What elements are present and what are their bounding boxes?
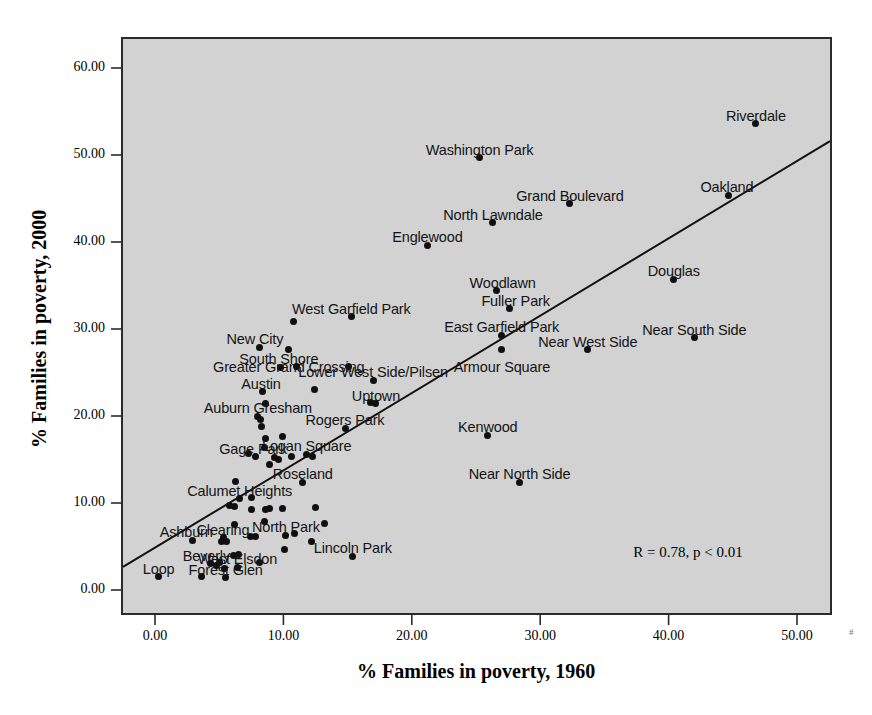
- data-point-label: East Garfield Park: [444, 319, 559, 335]
- data-point: [231, 503, 238, 510]
- data-point: [279, 505, 286, 512]
- data-point-label: Auburn Gresham: [204, 400, 312, 416]
- data-point: [258, 423, 265, 430]
- data-point: [311, 386, 318, 393]
- data-point-label: Near West Side: [538, 334, 637, 350]
- x-tick-label: 30.00: [518, 628, 562, 644]
- y-tick-label: 20.00: [47, 407, 105, 423]
- data-point-label: New City: [227, 331, 284, 347]
- data-point-label: Near South Side: [642, 322, 746, 338]
- data-point-label: Grand Boulevard: [516, 188, 623, 204]
- x-tick-label: 10.00: [261, 628, 305, 644]
- data-point-label: Lower West Side/Pilsen: [298, 364, 448, 380]
- data-point-label: Loop: [143, 561, 175, 577]
- data-point-label: Fuller Park: [481, 293, 549, 309]
- data-point-label: Forest Glen: [189, 562, 263, 578]
- correlation-annotation: R = 0.78, p < 0.01: [633, 544, 742, 561]
- data-point-label: Rogers Park: [306, 412, 385, 428]
- data-point-label: Oakland: [700, 179, 753, 195]
- y-tick-label: 30.00: [47, 320, 105, 336]
- data-point: [290, 318, 297, 325]
- data-point-label: Washington Park: [426, 142, 534, 158]
- data-point-label: Gage Park: [219, 441, 287, 457]
- scatter-plot-figure: RiverdaleWashington ParkOaklandGrand Bou…: [0, 0, 872, 715]
- data-point: [321, 520, 328, 527]
- x-axis-title: % Families in poverty, 1960: [357, 660, 595, 683]
- data-point-label: Douglas: [648, 263, 700, 279]
- y-tick-label: 0.00: [47, 581, 105, 597]
- data-point-label: North Park: [252, 519, 320, 535]
- x-tick-label: 40.00: [647, 628, 691, 644]
- data-point: [257, 416, 264, 423]
- data-point-label: Calumet Heights: [187, 483, 292, 499]
- x-tick-label: 20.00: [390, 628, 434, 644]
- x-tick-label: 0.00: [133, 628, 177, 644]
- data-point-label: Armour Square: [454, 359, 550, 375]
- data-point: [266, 505, 273, 512]
- y-tick-label: 50.00: [47, 146, 105, 162]
- data-point-label: Riverdale: [726, 108, 786, 124]
- y-axis-title: % Families in poverty, 2000: [28, 210, 51, 448]
- data-point-label: Kenwood: [458, 419, 517, 435]
- x-tick-label: 50.00: [775, 628, 819, 644]
- data-point-label: Near North Side: [469, 466, 571, 482]
- data-point-label: Austin: [241, 376, 280, 392]
- data-point-label: West Garfield Park: [292, 301, 411, 317]
- data-point-label: Woodlawn: [470, 275, 536, 291]
- y-tick-label: 10.00: [47, 494, 105, 510]
- data-point-label: Ashburn: [160, 524, 213, 540]
- y-tick-label: 40.00: [47, 233, 105, 249]
- y-tick-label: 60.00: [47, 59, 105, 75]
- data-point-label: Englewood: [392, 229, 462, 245]
- data-point: [312, 504, 319, 511]
- data-point-label: Uptown: [352, 388, 400, 404]
- data-point: [275, 456, 282, 463]
- data-point-label: Lincoln Park: [314, 540, 392, 556]
- data-point-label: Roseland: [273, 466, 333, 482]
- corner-mark-glyph: #: [849, 627, 854, 637]
- data-point-label: North Lawndale: [443, 207, 542, 223]
